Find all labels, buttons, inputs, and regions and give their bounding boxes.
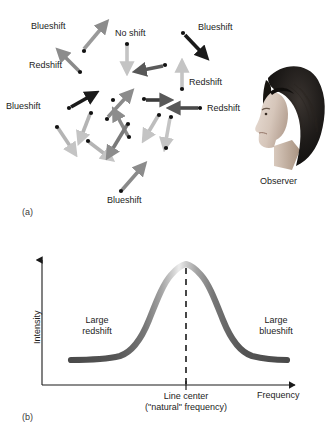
zone-label-large-redshift: Large redshift [62,315,132,337]
zone-label-large-redshift-line1: Large [62,315,132,326]
line-center-caption-line2: ("natural" frequency) [116,402,256,413]
panel-tag-b: (b) [22,412,33,422]
y-axis-label: Intensity [32,310,42,344]
zone-label-large-blueshift: Large blueshift [238,315,314,337]
panel-b-chart [0,0,332,440]
zone-label-large-blueshift-line2: blueshift [238,326,314,337]
x-axis-label: Frequency [257,390,300,400]
spectral-line-curve [71,264,287,360]
zone-label-large-redshift-line2: redshift [62,326,132,337]
line-center-caption-line1: Line center [116,391,256,402]
figure-root: Blueshift No shift Blueshift Redshift Re… [0,0,332,440]
line-center-caption: Line center ("natural" frequency) [116,391,256,413]
zone-label-large-blueshift-line1: Large [238,315,314,326]
